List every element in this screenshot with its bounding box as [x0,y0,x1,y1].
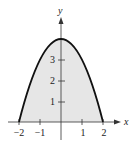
x-axis-label: x [123,116,129,127]
y-axis-label: y [57,5,63,16]
x-tick-label-2: 2 [102,127,107,138]
x-tick-label-neg2: −2 [14,127,25,138]
y-tick-label-2: 2 [50,75,55,86]
y-tick-label-3: 3 [50,54,55,65]
y-axis-arrow-icon [59,17,64,24]
x-tick-label-1: 1 [81,127,86,138]
x-tick-label-neg1: −1 [35,127,46,138]
chart-canvas: −2 −1 1 2 1 2 3 x y [0,0,137,144]
y-tick-label-1: 1 [50,96,55,107]
x-axis-arrow-icon [114,120,121,125]
